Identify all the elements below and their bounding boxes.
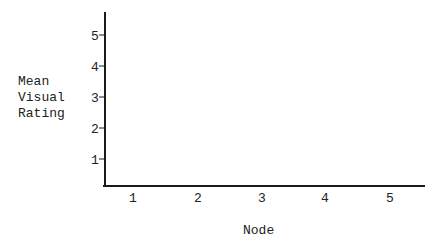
y-ticks: 5 4 3 2 1 bbox=[91, 29, 105, 168]
x-tick-label: 2 bbox=[194, 191, 202, 206]
y-tick-label: 5 bbox=[91, 29, 99, 44]
y-axis-label: Mean Visual Rating bbox=[18, 74, 65, 121]
svg-text:Rating: Rating bbox=[18, 106, 65, 121]
x-tick-label: 5 bbox=[386, 191, 394, 206]
x-tick-label: 1 bbox=[129, 191, 137, 206]
x-ticks: 1 2 3 4 5 bbox=[129, 191, 394, 206]
y-tick-label: 2 bbox=[91, 122, 99, 137]
svg-text:Visual: Visual bbox=[18, 90, 65, 105]
y-tick-label: 3 bbox=[91, 91, 99, 106]
svg-text:Mean: Mean bbox=[18, 74, 49, 89]
x-tick-label: 4 bbox=[321, 191, 329, 206]
y-tick-label: 1 bbox=[91, 153, 99, 168]
x-axis-label: Node bbox=[243, 223, 274, 238]
y-tick-label: 4 bbox=[91, 60, 99, 75]
chart: 5 4 3 2 1 1 2 3 4 5 Node Mean Visual Rat… bbox=[0, 0, 439, 243]
x-tick-label: 3 bbox=[258, 191, 266, 206]
